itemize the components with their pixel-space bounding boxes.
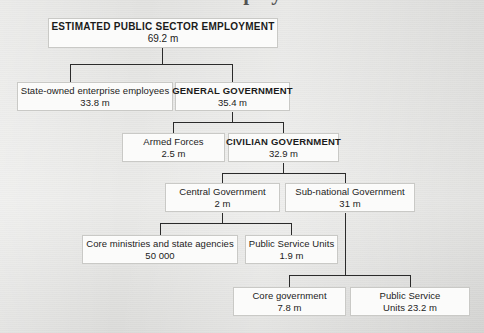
node-label: Core government	[252, 290, 326, 302]
connector-general-government-bus	[173, 122, 284, 123]
node-sub-national-government[interactable]: Sub-national Government 31 m	[285, 183, 415, 212]
connector-central-government-stem	[222, 213, 223, 223]
connector-general-government-stem	[232, 112, 233, 122]
connector-root-to-general-government	[232, 64, 233, 82]
node-label: Public Service	[380, 290, 441, 302]
node-public-service-units[interactable]: Public Service Units 1.9 m	[245, 235, 338, 264]
node-value: 35.4 m	[218, 97, 247, 109]
node-value: 2 m	[215, 198, 231, 210]
connector-root-bus	[70, 64, 233, 65]
node-label: Central Government	[179, 186, 265, 198]
connector-root-to-soe	[70, 64, 71, 82]
node-civilian-government[interactable]: CIVILIAN GOVERNMENT 32.9 m	[228, 133, 339, 162]
node-label: State-owned enterprise employees	[21, 85, 169, 97]
node-value: 50 000	[145, 250, 174, 262]
node-value: 31 m	[339, 198, 360, 210]
node-core-ministries-and-state-agencies[interactable]: Core ministries and state agencies 50 00…	[82, 235, 238, 264]
node-value: 7.8 m	[277, 302, 301, 314]
node-label: GENERAL GOVERNMENT	[172, 85, 293, 97]
node-central-government[interactable]: Central Government 2 m	[165, 183, 280, 212]
node-general-government[interactable]: GENERAL GOVERNMENT 35.4 m	[175, 82, 290, 111]
node-label: ESTIMATED PUBLIC SECTOR EMPLOYMENT	[51, 21, 274, 33]
node-label: CIVILIAN GOVERNMENT	[226, 136, 341, 148]
node-armed-forces[interactable]: Armed Forces 2.5 m	[122, 133, 225, 162]
connector-civilian-government-to-central-government	[222, 173, 223, 183]
connector-sub-national-government-stem	[345, 213, 346, 275]
cropped-page-title: blic sector employment	[0, 0, 484, 7]
node-value: 1.9 m	[279, 250, 303, 262]
cropped-page-title-text: blic sector employment	[120, 0, 327, 6]
connector-civilian-government-stem	[283, 163, 284, 173]
org-chart-canvas: blic sector employment ESTIMATED PUBLIC …	[0, 0, 484, 333]
connector-general-government-to-civilian-government	[283, 122, 284, 133]
node-core-government[interactable]: Core government 7.8 m	[233, 287, 346, 316]
node-value: 33.8 m	[80, 97, 109, 109]
node-label: Armed Forces	[143, 136, 203, 148]
node-label: Public Service Units	[249, 238, 334, 250]
connector-civilian-government-bus	[222, 173, 346, 174]
connector-central-government-to-public-service-units	[291, 223, 292, 235]
connector-sub-national-government-to-public-service-units-subnational	[410, 275, 411, 287]
node-value: 32.9 m	[269, 148, 298, 160]
connector-sub-national-government-bus	[289, 275, 411, 276]
node-estimated-public-sector-employment[interactable]: ESTIMATED PUBLIC SECTOR EMPLOYMENT 69.2 …	[48, 18, 278, 48]
node-value: 69.2 m	[148, 33, 179, 45]
node-value: 2.5 m	[161, 148, 185, 160]
node-label: Core ministries and state agencies	[86, 238, 233, 250]
node-label: Sub-national Government	[295, 186, 404, 198]
connector-central-government-to-core-ministries	[160, 223, 161, 235]
connector-civilian-government-to-sub-national-government	[345, 173, 346, 183]
node-public-service-units-subnational[interactable]: Public Service Units 23.2 m	[350, 287, 470, 316]
connector-sub-national-government-to-core-government	[289, 275, 290, 287]
connector-root-stem	[162, 48, 163, 64]
connector-general-government-to-armed-forces	[173, 122, 174, 133]
node-state-owned-enterprise-employees[interactable]: State-owned enterprise employees 33.8 m	[17, 82, 173, 111]
node-value: Units 23.2 m	[383, 302, 437, 314]
connector-central-government-bus	[160, 223, 292, 224]
